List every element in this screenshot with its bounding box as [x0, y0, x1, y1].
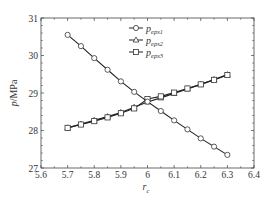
x-tick-label: 5.9 — [115, 170, 127, 180]
line-chart: 5.65.75.85.966.16.26.36.42728293031 peps… — [0, 0, 271, 206]
y-tick-label: 27 — [29, 164, 39, 174]
y-tick-label: 30 — [29, 51, 39, 61]
data-point-p_eps1 — [105, 67, 110, 72]
data-point-p_eps1 — [211, 144, 216, 149]
data-point-p_eps3 — [158, 94, 163, 99]
data-point-p_eps3 — [92, 119, 97, 124]
legend-marker-circle — [133, 25, 138, 30]
data-point-p_eps3 — [225, 72, 230, 77]
x-axis-label-subscript: c — [147, 187, 150, 194]
legend: peps1peps2peps3 — [129, 23, 164, 60]
y-tick-label: 31 — [29, 14, 39, 24]
data-point-p_eps1 — [158, 108, 163, 113]
data-point-p_eps3 — [118, 111, 123, 116]
x-tick-label: 5.8 — [88, 170, 100, 180]
y-tick-label: 28 — [29, 126, 39, 136]
data-point-p_eps1 — [198, 136, 203, 141]
x-tick-label: 6.4 — [248, 170, 260, 180]
legend-label-subscript: eps2 — [151, 40, 164, 47]
legend-item-p_eps1: peps1 — [129, 23, 163, 36]
x-tick-label: 6.3 — [221, 170, 233, 180]
x-tick-label: 6 — [145, 170, 150, 180]
data-point-p_eps1 — [185, 127, 190, 132]
data-point-p_eps1 — [145, 99, 150, 104]
legend-marker-square — [133, 49, 138, 54]
data-point-p_eps1 — [78, 44, 83, 49]
data-point-p_eps3 — [198, 82, 203, 87]
y-axis-label: p/MPa — [8, 79, 19, 107]
legend-item-p_eps3: peps3 — [129, 47, 164, 60]
y-axis-label-unit: /MPa — [8, 79, 19, 101]
data-point-p_eps3 — [105, 115, 110, 120]
data-point-p_eps3 — [185, 86, 190, 91]
data-point-p_eps1 — [132, 89, 137, 94]
data-point-p_eps3 — [78, 122, 83, 127]
data-point-p_eps3 — [172, 90, 177, 95]
data-point-p_eps1 — [172, 118, 177, 123]
legend-item-p_eps2: peps2 — [129, 35, 164, 48]
data-point-p_eps3 — [132, 106, 137, 111]
x-tick-label: 6.2 — [195, 170, 207, 180]
legend-label: peps1 — [145, 23, 163, 36]
legend-label-subscript: eps1 — [151, 28, 163, 35]
y-tick-label: 29 — [29, 89, 39, 99]
data-point-p_eps3 — [211, 77, 216, 82]
data-point-p_eps1 — [65, 32, 70, 37]
legend-label-subscript: eps3 — [151, 52, 164, 59]
legend-label: peps3 — [145, 47, 164, 60]
data-point-p_eps1 — [225, 152, 230, 157]
x-tick-label: 6.1 — [168, 170, 180, 180]
data-point-p_eps3 — [65, 125, 70, 130]
x-axis-label: rc — [143, 181, 150, 194]
legend-label: peps2 — [145, 35, 164, 48]
data-point-p_eps1 — [118, 79, 123, 84]
x-tick-label: 5.7 — [62, 170, 74, 180]
data-point-p_eps1 — [92, 56, 97, 61]
